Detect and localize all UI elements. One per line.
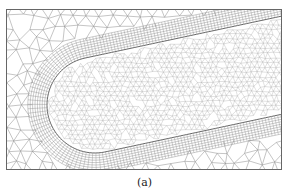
mesh-figure bbox=[6, 9, 282, 170]
figure-caption: (a) bbox=[0, 176, 289, 189]
mesh-diagram bbox=[7, 10, 282, 170]
